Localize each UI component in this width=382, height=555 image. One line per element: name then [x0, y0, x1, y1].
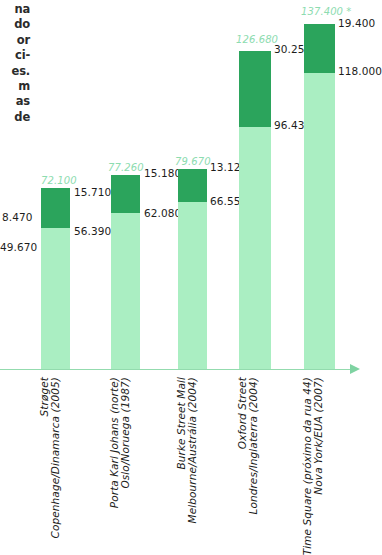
- bar-strogget: [41, 188, 70, 369]
- bar-segment-bottom: [239, 127, 271, 369]
- bar-top-value-label: 19.400: [338, 17, 375, 29]
- arrow-right-icon: [350, 364, 360, 374]
- bar-segment-bottom: [111, 213, 140, 369]
- bar-total-label: 126.680: [236, 34, 278, 45]
- bar-segment-bottom: [178, 202, 207, 369]
- x-axis-line: [0, 369, 352, 370]
- x-axis-label-oxford-street: Oxford Street Londres/Inglaterra (2004): [236, 377, 252, 547]
- page-margin-text: na do or ci- es. m as de: [0, 2, 30, 125]
- x-axis-label-line2: Nova York/EUA (2007): [312, 377, 324, 495]
- x-axis-label-line2: Londres/Inglaterra (2004): [247, 377, 259, 515]
- bar-burke-street-mall: [178, 169, 207, 369]
- cropped-value-label-top: 8.470: [2, 211, 33, 223]
- bar-time-square: [304, 24, 335, 369]
- bar-bottom-value-label: 62.080: [144, 207, 181, 219]
- bar-oxford-street: [239, 51, 271, 369]
- x-axis-label-strogget: Strøget Copenhage/Dinamarca (2005): [38, 377, 54, 547]
- bar-total-label: 77.260: [108, 162, 144, 173]
- bar-segment-bottom: [41, 228, 70, 369]
- bar-bottom-value-label: 56.390: [74, 225, 111, 237]
- x-axis-label-porta-karl-johans: Porta Karl Johans (norte) Oslo/Noruega (…: [108, 377, 124, 547]
- bar-total-label: 137.400 *: [301, 6, 351, 17]
- bar-bottom-value-label: 118.000: [338, 65, 382, 77]
- x-axis-label-line2: Oslo/Noruega (1987): [119, 377, 131, 489]
- x-axis-label-time-square: Time Square (próximo da rua 44) Nova Yor…: [301, 377, 317, 547]
- bar-top-value-label: 15.180: [144, 167, 181, 179]
- bar-total-label: 72.100: [41, 175, 77, 186]
- cropped-value-label-bottom: 49.670: [0, 241, 37, 253]
- bar-top-value-label: 15.710: [74, 186, 111, 198]
- bar-segment-bottom: [304, 73, 335, 369]
- x-axis-label-burke-street-mall: Burke Street Mall Melbourne/Austrália (2…: [175, 377, 191, 547]
- bar-segment-top: [304, 24, 335, 73]
- bar-segment-top: [111, 175, 140, 213]
- x-axis-label-line2: Melbourne/Austrália (2004): [186, 377, 198, 523]
- bar-segment-top: [178, 169, 207, 202]
- bar-segment-top: [41, 188, 70, 228]
- bar-porta-karl-johans: [111, 175, 140, 369]
- bar-total-label: 79.670: [175, 156, 211, 167]
- bar-segment-top: [239, 51, 271, 127]
- x-axis-label-line2: Copenhage/Dinamarca (2005): [49, 377, 61, 538]
